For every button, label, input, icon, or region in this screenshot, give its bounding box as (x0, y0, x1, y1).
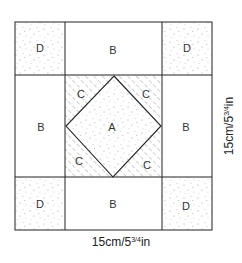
label-c-bottom-left: C (75, 155, 83, 167)
label-c-top-right: C (142, 88, 150, 100)
quilt-block-diagram: D B D B A B C C C C D B D 15cm/53/4in 15… (0, 0, 242, 263)
label-b-bottom: B (109, 198, 116, 210)
label-a-center: A (108, 121, 116, 133)
height-dimension-label: 15cm/53/4in (222, 97, 236, 155)
label-b-left: B (37, 121, 44, 133)
label-d-top-left: D (36, 42, 44, 54)
label-d-bottom-right: D (182, 200, 190, 212)
label-c-bottom-right: C (143, 159, 151, 171)
label-b-top: B (109, 44, 116, 56)
label-d-top-right: D (183, 42, 191, 54)
label-d-bottom-left: D (36, 198, 44, 210)
label-c-top-left: C (77, 88, 85, 100)
label-b-right: B (182, 121, 189, 133)
width-dimension-label: 15cm/53/4in (92, 235, 150, 249)
